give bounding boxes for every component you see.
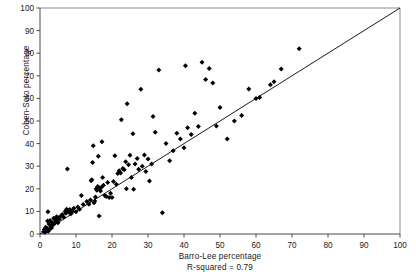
data-point bbox=[254, 96, 259, 101]
y-tick-label: 0 bbox=[29, 230, 34, 239]
x-tick-label: 10 bbox=[71, 241, 81, 250]
data-point bbox=[164, 141, 169, 146]
data-point bbox=[119, 117, 124, 122]
data-point bbox=[232, 119, 237, 124]
data-point bbox=[65, 166, 70, 171]
data-point bbox=[149, 161, 154, 166]
data-point bbox=[268, 82, 273, 87]
data-point bbox=[160, 210, 165, 215]
data-point bbox=[146, 156, 151, 161]
data-point bbox=[133, 161, 138, 166]
data-point bbox=[167, 158, 172, 163]
data-point bbox=[128, 153, 133, 158]
x-axis-caption-block: Barro-Lee percentage R-squared = 0.79 bbox=[150, 252, 290, 273]
data-point bbox=[124, 186, 129, 191]
data-point bbox=[225, 137, 230, 142]
data-point bbox=[110, 195, 115, 200]
scatter-plot-figure: 0102030405060708090100 01020304050607080… bbox=[0, 0, 416, 280]
data-point bbox=[142, 152, 147, 157]
data-point bbox=[207, 66, 212, 71]
data-point bbox=[200, 60, 205, 65]
x-tick-label: 60 bbox=[251, 241, 261, 250]
data-point bbox=[174, 131, 179, 136]
data-point bbox=[182, 145, 187, 150]
data-point bbox=[105, 180, 110, 185]
data-point bbox=[189, 132, 194, 137]
data-point bbox=[138, 87, 143, 92]
data-point bbox=[218, 105, 223, 110]
chart-canvas: 0102030405060708090100 01020304050607080… bbox=[0, 0, 416, 280]
data-point bbox=[108, 191, 113, 196]
data-point bbox=[279, 67, 284, 72]
data-point bbox=[45, 209, 50, 214]
x-tick-label: 90 bbox=[359, 241, 369, 250]
x-tick-label: 80 bbox=[323, 241, 333, 250]
data-point-series bbox=[41, 46, 302, 235]
y-tick-label: 20 bbox=[25, 185, 35, 194]
data-point bbox=[185, 125, 190, 130]
data-point bbox=[203, 77, 208, 82]
x-tick-label: 30 bbox=[143, 241, 153, 250]
data-point bbox=[183, 63, 188, 68]
r-squared-annotation: R-squared = 0.79 bbox=[150, 263, 290, 274]
y-tick-label: 100 bbox=[20, 4, 34, 13]
data-point bbox=[131, 187, 136, 192]
data-point bbox=[135, 156, 140, 161]
data-point bbox=[210, 81, 215, 86]
data-point bbox=[239, 113, 244, 118]
data-point bbox=[153, 130, 158, 135]
data-point bbox=[257, 95, 262, 100]
data-point bbox=[147, 179, 152, 184]
data-point bbox=[97, 213, 102, 218]
data-point bbox=[192, 111, 197, 116]
data-point bbox=[96, 154, 101, 159]
data-point bbox=[81, 202, 86, 207]
data-point bbox=[123, 159, 128, 164]
data-point bbox=[130, 131, 135, 136]
data-point bbox=[79, 193, 84, 198]
y-axis-label: Cohen-Soto percentage bbox=[22, 21, 31, 161]
data-point bbox=[93, 194, 98, 199]
y-tick-label: 30 bbox=[25, 162, 35, 171]
x-tick-label: 0 bbox=[38, 241, 43, 250]
data-point bbox=[99, 139, 104, 144]
data-point bbox=[91, 143, 96, 148]
data-point bbox=[297, 46, 302, 51]
data-point bbox=[126, 162, 131, 167]
data-point bbox=[151, 114, 156, 119]
data-point bbox=[100, 175, 105, 180]
x-axis-ticks: 0102030405060708090100 bbox=[38, 234, 408, 250]
x-tick-label: 40 bbox=[179, 241, 189, 250]
data-point bbox=[178, 137, 183, 142]
data-point bbox=[156, 67, 161, 72]
data-point bbox=[143, 169, 148, 174]
x-tick-label: 20 bbox=[107, 241, 117, 250]
x-tick-label: 70 bbox=[287, 241, 297, 250]
y-tick-label: 10 bbox=[25, 207, 35, 216]
data-point bbox=[272, 79, 277, 84]
data-point bbox=[140, 164, 145, 169]
data-point bbox=[90, 160, 95, 165]
data-point bbox=[112, 153, 117, 158]
x-tick-label: 50 bbox=[215, 241, 225, 250]
data-point bbox=[246, 86, 251, 91]
x-tick-label: 100 bbox=[393, 241, 407, 250]
data-point bbox=[196, 124, 201, 129]
data-point bbox=[125, 101, 130, 106]
x-axis-label: Barro-Lee percentage bbox=[150, 252, 290, 263]
